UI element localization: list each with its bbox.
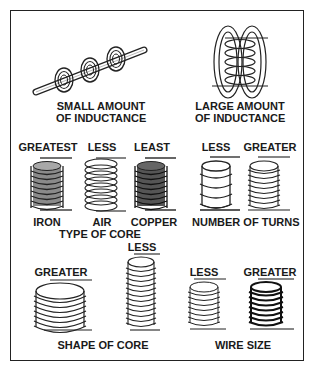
shape-of-core-title: SHAPE OF CORE	[55, 339, 151, 351]
thick-wire-rank-label: GREATER	[242, 266, 298, 278]
tall-core-coil-icon	[126, 254, 160, 330]
wire-size-title: WIRE SIZE	[208, 339, 278, 351]
iron-label: IRON	[27, 216, 67, 228]
fewer-turns-coil-icon	[200, 157, 240, 210]
thick-wire-coil-icon	[249, 279, 294, 329]
straight-wire-icon	[36, 47, 144, 92]
more-turns-rank-label: GREATER	[240, 141, 300, 153]
coil-flux-icon	[212, 26, 268, 98]
inductance-illustrations	[0, 0, 313, 371]
wide-core-rank-label: GREATER	[34, 266, 88, 278]
small-inductance-caption-line2: OF INDUCTANCE	[56, 112, 146, 124]
tall-core-rank-label: LESS	[125, 241, 159, 253]
thin-wire-rank-label: LESS	[186, 266, 222, 278]
air-rank-label: LESS	[82, 141, 122, 153]
copper-core-coil-icon	[135, 158, 176, 210]
air-label: AIR	[84, 216, 120, 228]
iron-rank-label: GREATEST	[18, 141, 78, 153]
fewer-turns-rank-label: LESS	[198, 141, 234, 153]
small-inductance-caption-line1: SMALL AMOUNT	[56, 100, 146, 112]
copper-rank-label: LEAST	[130, 141, 174, 153]
type-of-core-title: TYPE OF CORE	[55, 228, 145, 240]
number-of-turns-title: NUMBER OF TURNS	[192, 216, 296, 228]
iron-core-coil-icon	[31, 158, 72, 210]
copper-label: COPPER	[130, 216, 178, 228]
more-turns-coil-icon	[248, 157, 290, 210]
thin-wire-coil-icon	[188, 279, 226, 329]
large-inductance-caption-line1: LARGE AMOUNT	[195, 100, 285, 112]
wide-core-coil-icon	[34, 280, 92, 333]
large-inductance-caption-line2: OF INDUCTANCE	[195, 112, 285, 124]
air-core-coil-icon	[85, 158, 126, 211]
